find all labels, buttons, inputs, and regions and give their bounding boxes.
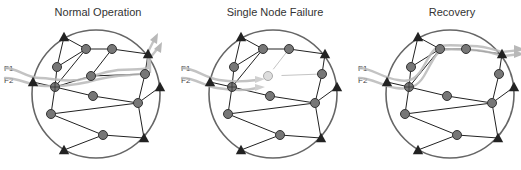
link-A-C [57,49,86,67]
link-G-H [93,96,138,103]
edge-router-icon [155,82,165,91]
router-node-icon [99,131,108,140]
link-I-J [228,114,280,135]
link-G-H [447,96,492,103]
panel-recovery [359,30,521,158]
router-node-icon [47,110,56,119]
router-node-icon [108,45,117,54]
link-F-G [55,87,93,96]
link-J-T4 [103,135,144,138]
edge-router-icon [332,82,342,91]
router-node-icon [285,45,294,54]
router-node-icon [318,70,327,79]
link-I-H [228,103,315,114]
router-node-icon [311,99,320,108]
link-G-H [270,96,315,103]
failed-node-icon [264,72,273,81]
link-J-T4 [457,135,498,138]
link-J-T5 [241,135,280,150]
link-H-T4 [138,103,144,138]
link-I-H [51,103,138,114]
router-node-icon [141,70,150,79]
router-node-icon [224,110,233,119]
router-node-icon [259,45,268,54]
router-node-icon [230,63,239,72]
router-node-icon [276,131,285,140]
router-node-icon [87,72,96,81]
router-node-icon [401,110,410,119]
edge-router-icon [509,82,519,91]
link-J-T4 [280,135,321,138]
link-I-J [405,114,457,135]
router-node-icon [443,92,452,101]
router-node-icon [266,92,275,101]
diagram-canvas: Normal Operation Single Node Failure Rec… [0,0,521,170]
router-node-icon [407,63,416,72]
flow-path-f2 [359,49,520,88]
link-F-G [409,87,447,96]
link-J-T5 [418,135,457,150]
router-node-icon [89,92,98,101]
link-J-T5 [64,135,103,150]
link-I-J [51,114,103,135]
flow-blocked-f2-icon [255,84,265,91]
router-node-icon [82,45,91,54]
router-node-icon [453,131,462,140]
router-node-icon [53,63,62,72]
panel-normal [5,30,165,158]
router-node-icon [134,99,143,108]
router-node-icon [495,70,504,79]
router-node-icon [436,45,445,54]
link-H-T4 [315,103,321,138]
router-node-icon [488,99,497,108]
network-diagram [0,0,521,170]
panel-failure [182,30,342,158]
link-A-C [234,49,263,67]
link-I-H [405,103,492,114]
router-node-icon [462,45,471,54]
link-H-T4 [492,103,498,138]
failed-link [282,74,323,76]
